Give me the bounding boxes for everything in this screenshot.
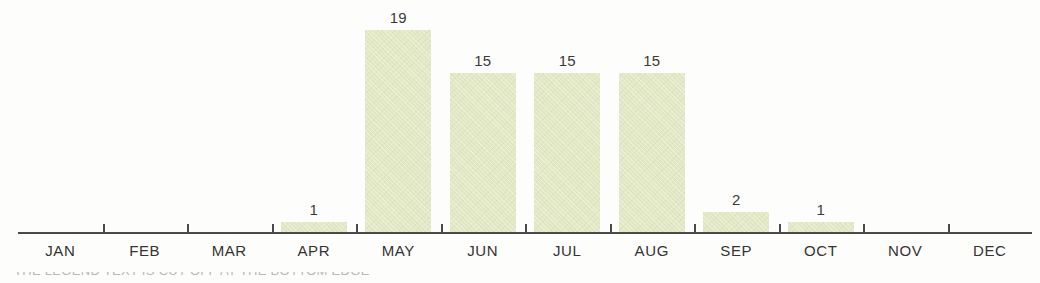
bar-slot: 1 bbox=[272, 0, 357, 233]
bar-slot: 15 bbox=[610, 0, 695, 233]
axis-tick bbox=[187, 224, 189, 233]
bar bbox=[703, 212, 769, 233]
bar-value-label: 15 bbox=[474, 52, 491, 69]
axis-label-apr: APR bbox=[272, 242, 357, 259]
axis-tick bbox=[525, 224, 527, 233]
bar-slot bbox=[187, 0, 272, 233]
axis-tick bbox=[948, 224, 950, 233]
axis-tick bbox=[779, 224, 781, 233]
axis-label-jan: JAN bbox=[18, 242, 103, 259]
bar-value-label: 2 bbox=[732, 191, 741, 208]
axis-tick bbox=[441, 224, 443, 233]
bar-value-label: 15 bbox=[559, 52, 576, 69]
axis-label-mar: MAR bbox=[187, 242, 272, 259]
bar bbox=[450, 73, 516, 233]
bar-value-label: 15 bbox=[643, 52, 660, 69]
x-axis-labels: JAN FEB MAR APR MAY JUN JUL AUG SEP OCT … bbox=[18, 242, 1032, 264]
axis-tick bbox=[356, 224, 358, 233]
axis-tick bbox=[610, 224, 612, 233]
bar-slot: 15 bbox=[441, 0, 526, 233]
bar-slot: 1 bbox=[779, 0, 864, 233]
axis-label-feb: FEB bbox=[103, 242, 188, 259]
axis-label-nov: NOV bbox=[863, 242, 948, 259]
bar-slot: 19 bbox=[356, 0, 441, 233]
plot-area: 1 19 15 15 15 2 1 bbox=[18, 0, 1032, 233]
axis-label-sep: SEP bbox=[694, 242, 779, 259]
bar-slot bbox=[18, 0, 103, 233]
axis-label-dec: DEC bbox=[948, 242, 1033, 259]
clipped-caption-text: THE LEGEND TEXT IS CUT OFF AT THE BOTTOM… bbox=[14, 272, 634, 278]
axis-tick bbox=[694, 224, 696, 233]
axis-tick bbox=[272, 224, 274, 233]
axis-label-aug: AUG bbox=[610, 242, 695, 259]
axis-tick bbox=[103, 224, 105, 233]
bar-value-label: 1 bbox=[309, 201, 318, 218]
axis-label-oct: OCT bbox=[779, 242, 864, 259]
bar-slot bbox=[863, 0, 948, 233]
bar-slot: 2 bbox=[694, 0, 779, 233]
bar-slot bbox=[948, 0, 1033, 233]
clipped-caption: THE LEGEND TEXT IS CUT OFF AT THE BOTTOM… bbox=[14, 272, 634, 283]
bar-value-label: 19 bbox=[390, 9, 407, 26]
bar-slot bbox=[103, 0, 188, 233]
bar-slot: 15 bbox=[525, 0, 610, 233]
bar-chart-figure: 1 19 15 15 15 2 1 bbox=[0, 0, 1040, 283]
axis-label-may: MAY bbox=[356, 242, 441, 259]
bar bbox=[619, 73, 685, 233]
bar bbox=[534, 73, 600, 233]
axis-tick bbox=[863, 224, 865, 233]
axis-label-jul: JUL bbox=[525, 242, 610, 259]
bar-value-label: 1 bbox=[816, 201, 825, 218]
bar bbox=[365, 30, 431, 233]
axis-label-jun: JUN bbox=[441, 242, 526, 259]
